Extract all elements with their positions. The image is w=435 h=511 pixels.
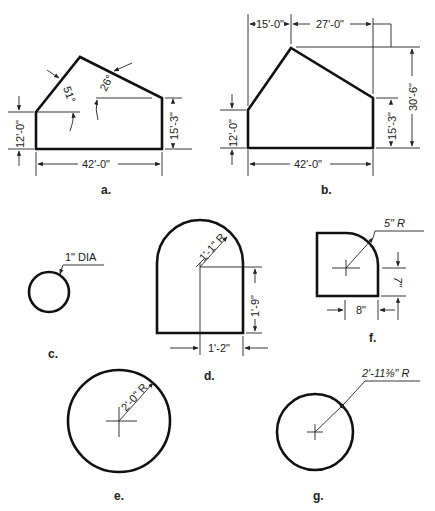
figure-b: 15'-0" 27'-0" 30'-6" 15'-3" 12'-0" 42'-0… — [220, 14, 420, 197]
angle-26-label: 26° — [97, 73, 115, 93]
radius-label: 2'-11⅜" R — [361, 367, 409, 379]
right-height-label: 15'-3" — [168, 112, 180, 140]
diameter-label: 1" DIA — [65, 251, 97, 263]
caption-f: f. — [369, 331, 376, 345]
angle-51-label: 51° — [61, 85, 78, 105]
drawing-sheet: 51° 26° 12'-0" 15'-3" 42'-0" a. — [0, 0, 435, 511]
circle-shape-c — [29, 272, 69, 312]
caption-d: d. — [204, 369, 215, 383]
right-height-label: 15'-3" — [386, 112, 398, 140]
left-height-label: 12'-0" — [227, 119, 239, 147]
caption-e: e. — [114, 489, 124, 503]
figure-a: 51° 26° 12'-0" 15'-3" 42'-0" a. — [8, 57, 192, 197]
top-left-dim-label: 15'-0" — [256, 18, 284, 30]
radius-label: 2'-0" R — [119, 381, 150, 414]
height-label: 1'-9" — [249, 295, 261, 317]
width-label: 1'-2" — [208, 342, 230, 354]
left-height-label: 12'-0" — [14, 120, 26, 148]
caption-a: a. — [101, 183, 111, 197]
height-label: 7" — [392, 277, 404, 288]
caption-c: c. — [48, 347, 58, 361]
top-right-dim-label: 27'-0" — [316, 18, 344, 30]
figure-d: 1'-1" R 1'-9" 1'-2" d. — [157, 220, 268, 383]
figure-f: 5" R 7" 8" f. — [317, 217, 424, 345]
pentagon-shape-a — [36, 57, 162, 149]
pentagon-shape-b — [248, 48, 373, 148]
width-label: 42'-0" — [294, 158, 322, 170]
radius-label: 5" R — [384, 217, 405, 229]
figure-e: 2'-0" R e. — [68, 370, 170, 503]
total-height-label: 30'-6" — [407, 83, 419, 111]
caption-g: g. — [313, 489, 324, 503]
width-label: 42'-0" — [82, 158, 110, 170]
figure-c: 1" DIA c. — [29, 251, 104, 361]
width-label: 8" — [356, 304, 366, 316]
caption-b: b. — [321, 183, 332, 197]
radius-label: 1'-1" R — [197, 231, 228, 264]
figure-g: 2'-11⅜" R g. — [277, 367, 420, 503]
